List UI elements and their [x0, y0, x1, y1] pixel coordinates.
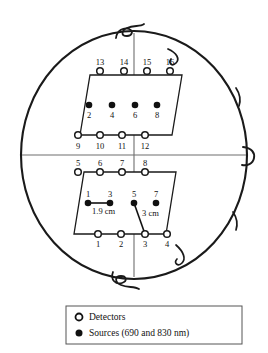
source-label: 8 [155, 110, 159, 120]
detector-marker[interactable] [144, 68, 151, 75]
detector-label: 6 [98, 158, 102, 168]
detector-label: 3 [143, 239, 147, 249]
head-outline-group [21, 24, 254, 289]
detector-label: 8 [143, 158, 147, 168]
source-marker[interactable] [86, 102, 93, 109]
detector-label: 5 [76, 158, 80, 168]
detector-label: 15 [143, 57, 152, 67]
source-marker[interactable] [153, 200, 160, 207]
source-marker[interactable] [154, 102, 161, 109]
detector-marker[interactable] [97, 169, 104, 176]
detector-label: 13 [96, 57, 105, 67]
detector-marker[interactable] [118, 231, 125, 238]
dimension-label-1-9cm: 1.9 cm [92, 206, 116, 216]
detector-label: 9 [76, 141, 80, 151]
source-label: 5 [132, 189, 136, 199]
source-marker[interactable] [109, 102, 116, 109]
legend: Detectors Sources (690 and 830 nm) [66, 306, 242, 344]
source-marker[interactable] [85, 200, 92, 207]
detector-label: 11 [118, 141, 126, 151]
detector-marker[interactable] [95, 231, 102, 238]
source-label: 3 [108, 189, 112, 199]
legend-source-icon [76, 330, 83, 337]
detector-marker[interactable] [142, 169, 149, 176]
detector-marker[interactable] [97, 68, 104, 75]
detector-marker[interactable] [75, 169, 82, 176]
figure-root: 13 14 15 16 9 10 11 12 5 6 7 8 1 2 3 4 2… [0, 0, 268, 353]
detector-label: 7 [120, 158, 124, 168]
detector-label: 16 [166, 57, 175, 67]
detector-label: 1 [96, 239, 100, 249]
detector-marker[interactable] [167, 68, 174, 75]
upper-probe-pad [80, 75, 182, 135]
detector-marker[interactable] [142, 132, 149, 139]
source-label: 1 [86, 189, 90, 199]
detector-marker[interactable] [164, 231, 171, 238]
detector-marker[interactable] [121, 68, 128, 75]
legend-label-sources: Sources (690 and 830 nm) [89, 328, 189, 339]
source-marker[interactable] [132, 102, 139, 109]
source-marker[interactable] [131, 200, 138, 207]
probe-placement-diagram: 13 14 15 16 9 10 11 12 5 6 7 8 1 2 3 4 2… [0, 0, 268, 353]
detector-label: 12 [141, 141, 150, 151]
legend-detector-icon [76, 314, 83, 321]
detector-label: 10 [96, 141, 105, 151]
detector-marker[interactable] [119, 169, 126, 176]
detector-marker[interactable] [75, 132, 82, 139]
detector-label: 14 [120, 57, 129, 67]
detector-marker[interactable] [119, 132, 126, 139]
source-label: 6 [133, 110, 137, 120]
detector-marker[interactable] [142, 231, 149, 238]
detector-marker[interactable] [97, 132, 104, 139]
source-label: 2 [87, 110, 91, 120]
source-label: 7 [154, 189, 158, 199]
legend-label-detectors: Detectors [89, 312, 126, 322]
dimension-label-3cm: 3 cm [142, 208, 159, 218]
detector-label: 2 [119, 239, 123, 249]
